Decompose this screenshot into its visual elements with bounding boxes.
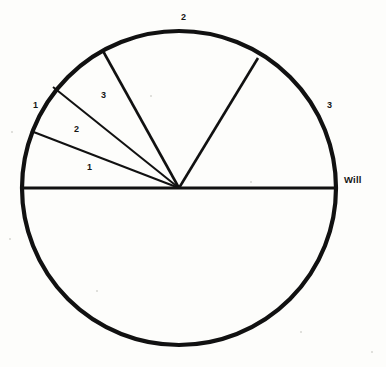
label-sector-2-left: 2 — [74, 125, 79, 134]
scan-speck — [250, 181, 252, 183]
scan-speck — [11, 131, 13, 133]
diagram-ink — [22, 31, 336, 345]
label-sector-3-upper-left: 3 — [101, 91, 106, 100]
label-will: Will — [344, 175, 362, 185]
scan-speck — [9, 238, 11, 240]
label-sector-1-outer-left: 1 — [33, 101, 38, 110]
spoke-to-upper-left — [53, 87, 179, 188]
label-sector-3-right: 3 — [327, 101, 332, 110]
diagram-page: 1 2 1 3 2 3 Will — [0, 0, 386, 367]
scan-speck — [371, 351, 373, 353]
spoke-to-top-left — [103, 51, 179, 188]
scan-speck — [96, 290, 98, 292]
label-sector-2-top: 2 — [181, 13, 186, 22]
spoke-to-lower-left — [31, 131, 179, 188]
circle-sector-diagram — [0, 0, 386, 367]
scan-speck — [300, 331, 302, 333]
spoke-to-top-right — [179, 58, 258, 188]
label-sector-1-lower-left: 1 — [87, 163, 92, 172]
scan-speck — [150, 95, 152, 97]
